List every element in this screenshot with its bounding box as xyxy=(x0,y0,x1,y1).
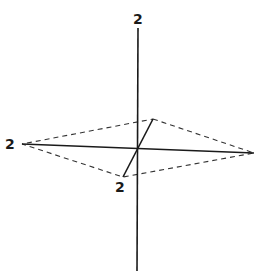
label-top: 2 xyxy=(133,11,143,27)
label-front: 2 xyxy=(115,179,125,195)
label-left: 2 xyxy=(5,136,15,152)
octahedron-diagram: 2 2 2 xyxy=(0,0,270,280)
